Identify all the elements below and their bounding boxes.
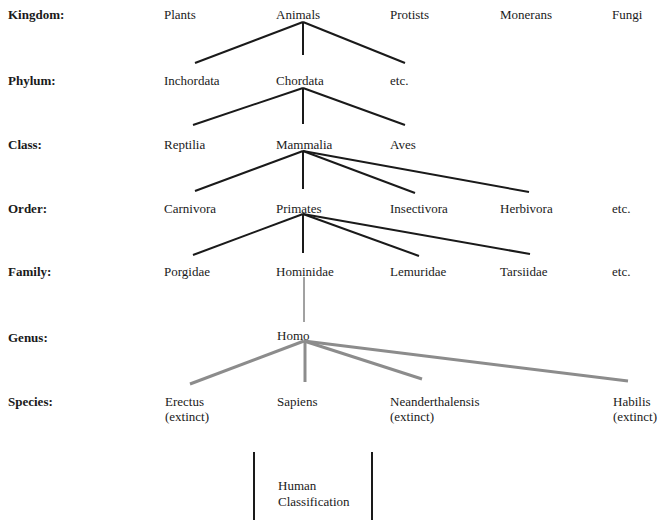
caption-line-1: Human	[278, 478, 350, 494]
species-name: Neanderthalensis	[390, 394, 480, 409]
family-porgidae: Porgidae	[164, 264, 210, 279]
phylum-inchordata: Inchordata	[164, 73, 220, 88]
genus-homo: Homo	[277, 328, 310, 343]
caption-line-2: Classification	[278, 494, 350, 510]
family-tarsiidae: Tarsiidae	[500, 264, 547, 279]
diagram-caption: Human Classification	[278, 478, 350, 510]
rank-class: Class:	[8, 137, 42, 152]
species-name: Habilis	[613, 394, 657, 409]
phylum-chordata: Chordata	[276, 73, 324, 88]
kingdom-protists: Protists	[390, 7, 429, 22]
family-lemuridae: Lemuridae	[390, 264, 446, 279]
family-etc: etc.	[612, 264, 630, 279]
species-status: (extinct)	[165, 409, 209, 424]
species-habilis: Habilis (extinct)	[613, 394, 657, 424]
kingdom-plants: Plants	[164, 7, 196, 22]
class-mammalia: Mammalia	[276, 137, 332, 152]
order-carnivora: Carnivora	[164, 201, 216, 216]
rank-order: Order:	[8, 201, 47, 216]
order-herbivora: Herbivora	[500, 201, 553, 216]
branch-lines	[193, 22, 530, 256]
rank-phylum: Phylum:	[8, 73, 56, 88]
kingdom-animals: Animals	[276, 7, 320, 22]
phylum-etc: etc.	[390, 73, 408, 88]
species-status: (extinct)	[390, 409, 480, 424]
species-name: Sapiens	[277, 394, 317, 409]
class-reptilia: Reptilia	[164, 137, 205, 152]
rank-species: Species:	[8, 394, 53, 409]
class-aves: Aves	[390, 137, 416, 152]
species-sapiens: Sapiens	[277, 394, 317, 409]
species-status: (extinct)	[613, 409, 657, 424]
order-insectivora: Insectivora	[390, 201, 448, 216]
species-erectus: Erectus (extinct)	[165, 394, 209, 424]
species-name: Erectus	[165, 394, 209, 409]
kingdom-monerans: Monerans	[500, 7, 552, 22]
species-branch-lines	[190, 341, 628, 384]
species-neanderthalensis: Neanderthalensis (extinct)	[390, 394, 480, 424]
family-hominidae: Hominidae	[276, 264, 334, 279]
tree-connectors	[0, 0, 664, 523]
rank-family: Family:	[8, 264, 51, 279]
order-primates: Primates	[276, 201, 322, 216]
rank-kingdom: Kingdom:	[8, 7, 64, 22]
order-etc: etc.	[612, 201, 630, 216]
kingdom-fungi: Fungi	[612, 7, 642, 22]
rank-genus: Genus:	[8, 330, 48, 345]
